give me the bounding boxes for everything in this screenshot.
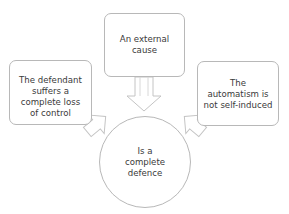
node-complete-defence-label: Is a complete defence bbox=[125, 146, 165, 179]
diagram-canvas: An external cause The defendant suffers … bbox=[0, 0, 289, 214]
node-external-cause-label: An external cause bbox=[120, 34, 169, 56]
node-complete-defence: Is a complete defence bbox=[99, 116, 191, 208]
node-loss-of-control: The defendant suffers a complete loss of… bbox=[9, 60, 92, 125]
arrow-down-icon bbox=[127, 77, 161, 111]
node-loss-of-control-label: The defendant suffers a complete loss of… bbox=[19, 75, 82, 119]
node-external-cause: An external cause bbox=[104, 13, 185, 77]
node-not-self-induced-label: The automatism is not self-induced bbox=[204, 78, 273, 111]
node-not-self-induced: The automatism is not self-induced bbox=[197, 61, 279, 126]
